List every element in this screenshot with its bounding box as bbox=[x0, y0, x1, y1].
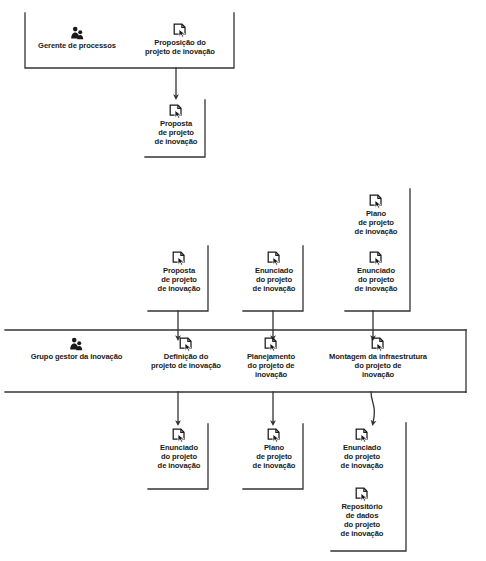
node-proposta-de-projeto[interactable]: Proposta de projeto de inovação bbox=[145, 104, 207, 147]
node-label: Proposta de projeto de inovação bbox=[148, 267, 210, 294]
node-label: Enunciado do projeto de inovação bbox=[345, 267, 407, 294]
node-label: Enunciado do projeto de inovação bbox=[331, 444, 393, 471]
node-planejamento-do-projeto[interactable]: Planejamento do projeto de inovação bbox=[234, 337, 308, 380]
node-definicao-do-projeto[interactable]: Definição do projeto de inovação bbox=[140, 337, 232, 371]
node-input-plano[interactable]: Plano de projeto de inovação bbox=[345, 194, 407, 237]
node-montagem-da-infraestrutura[interactable]: Montagem da infraestrutura do projeto de… bbox=[312, 337, 444, 380]
document-cursor-icon bbox=[266, 251, 283, 266]
document-cursor-icon bbox=[178, 337, 195, 352]
node-label: Gerente de processos bbox=[22, 42, 132, 51]
document-cursor-icon bbox=[263, 337, 280, 352]
node-output-enunciado[interactable]: Enunciado do projeto de inovação bbox=[148, 428, 210, 471]
node-input-enunciado[interactable]: Enunciado do projeto de inovação bbox=[243, 251, 305, 294]
document-cursor-icon bbox=[354, 428, 371, 443]
role-person-icon bbox=[69, 26, 86, 41]
document-cursor-icon bbox=[266, 428, 283, 443]
node-gerente-de-processos[interactable]: Gerente de processos bbox=[22, 26, 132, 51]
document-cursor-icon bbox=[368, 194, 385, 209]
node-label: Enunciado do projeto de inovação bbox=[148, 444, 210, 471]
node-label: Definição do projeto de inovação bbox=[140, 353, 232, 371]
node-label: Plano de projeto de inovação bbox=[243, 444, 305, 471]
node-label: Grupo gestor da inovação bbox=[14, 353, 139, 362]
document-cursor-icon bbox=[370, 337, 387, 352]
document-cursor-icon bbox=[171, 428, 188, 443]
node-input-enunciado-2[interactable]: Enunciado do projeto de inovação bbox=[345, 251, 407, 294]
node-output-repositorio-de-dados[interactable]: Repositório de dados do projeto de inova… bbox=[331, 487, 393, 539]
document-cursor-icon bbox=[171, 251, 188, 266]
node-output-plano[interactable]: Plano de projeto de inovação bbox=[243, 428, 305, 471]
node-label: Enunciado do projeto de inovação bbox=[243, 267, 305, 294]
node-label: Montagem da infraestrutura do projeto de… bbox=[312, 353, 444, 380]
arrow-montagem-to-output3 bbox=[371, 392, 374, 423]
role-person-icon bbox=[68, 337, 85, 352]
node-label: Repositório de dados do projeto de inova… bbox=[331, 503, 393, 539]
diagram-canvas: Gerente de processos Proposição do proje… bbox=[0, 0, 486, 561]
node-label: Proposição do projeto de inovação bbox=[128, 39, 232, 57]
document-cursor-icon bbox=[168, 104, 185, 119]
node-label: Proposta de projeto de inovação bbox=[145, 120, 207, 147]
node-grupo-gestor-da-inovacao[interactable]: Grupo gestor da inovação bbox=[14, 337, 139, 362]
node-label: Plano de projeto de inovação bbox=[345, 210, 407, 237]
document-cursor-icon bbox=[172, 23, 189, 38]
node-output-enunciado-2[interactable]: Enunciado do projeto de inovação bbox=[331, 428, 393, 471]
node-proposicao-do-projeto[interactable]: Proposição do projeto de inovação bbox=[128, 23, 232, 57]
document-cursor-icon bbox=[354, 487, 371, 502]
node-label: Planejamento do projeto de inovação bbox=[234, 353, 308, 380]
node-input-proposta[interactable]: Proposta de projeto de inovação bbox=[148, 251, 210, 294]
document-cursor-icon bbox=[368, 251, 385, 266]
